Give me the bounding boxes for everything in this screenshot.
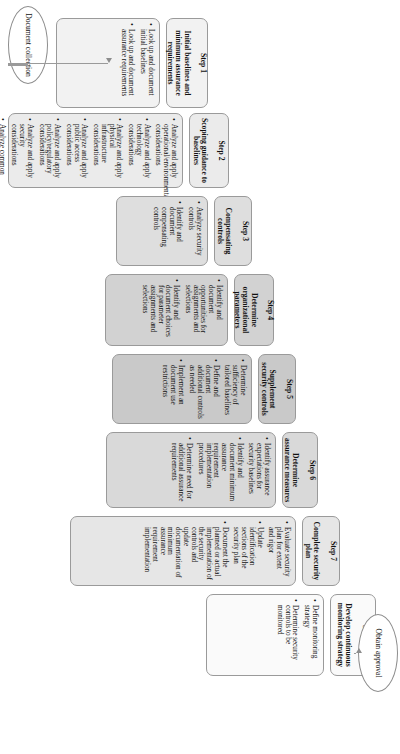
step2-bullet-3: Analyze and apply physical infrastructur… <box>91 124 122 183</box>
step6-step-label: Step 6 <box>308 437 316 503</box>
step8-body: Define monitoring strategy Determine sec… <box>206 594 324 676</box>
step5-step-label: Step 5 <box>285 359 293 419</box>
connector-doccollection-riser <box>28 63 108 64</box>
step4-step-label: Step 4 <box>266 279 274 341</box>
connector-doccollection-vertical <box>8 63 28 66</box>
step5-header: Step 5 Supplement security controls <box>258 354 296 424</box>
step3-heading: Compensating controls <box>216 201 232 261</box>
step3-step-label: Step 3 <box>241 201 249 261</box>
security-control-selection-flowchart: Step 1 Initial baselines and minimum ass… <box>0 0 400 754</box>
step7-heading: Complete security plan <box>304 521 320 581</box>
step2-step-label: Step 2 <box>217 118 225 183</box>
step7-step-label: Step 7 <box>329 521 337 581</box>
obtain-approval-label: Obtain approval <box>374 628 383 677</box>
step7-bullet-1: Evaluate security plan for extent and ri… <box>267 527 290 581</box>
step2-bullet-5: Analyze and apply policy/regulatory cons… <box>37 124 60 183</box>
arrowhead-to-step1 <box>106 58 112 63</box>
step2-body: Analyze and apply operational/environmen… <box>8 113 183 188</box>
step7-bullet-2: Update identification sections of the se… <box>232 527 263 581</box>
connector-step8-to-approval <box>354 653 356 654</box>
terminal-obtain-approval: Obtain approval <box>358 614 398 692</box>
step3-bullet-2: Identify and document compensating contr… <box>151 207 182 261</box>
step8-heading: Develop continuous monitoring strategy <box>336 599 352 671</box>
step1-bullet-2: Look up and document assurance requireme… <box>119 29 135 103</box>
step1-header: Step 1 Initial baselines and minimum ass… <box>166 18 208 108</box>
step6-bullet-1: Identify assurance expectations for secu… <box>247 443 270 503</box>
step4-body: Identify and document opportunities for … <box>105 274 228 346</box>
step2-header: Step 2 Scoping guidance to baselines <box>189 113 229 188</box>
step6-header: Step 6 Determine assurance measures <box>282 432 318 508</box>
step2-bullet-7: Analyze common control considerations <box>0 124 5 183</box>
step2-bullet-4: Analyze and apply public access consider… <box>64 124 87 183</box>
step4-heading: Determine organizational parameters <box>233 279 258 341</box>
step1-step-label: Step 1 <box>199 23 207 103</box>
step6-bullet-2: Identify and document minimum assurance … <box>196 443 243 503</box>
step7-header: Step 7 Complete security plan <box>302 516 340 586</box>
step7-body: Evaluate security plan for extent and ri… <box>70 516 296 586</box>
step3-body: Analyze security controls Identify and d… <box>116 196 208 266</box>
document-collection-label: Document collection <box>24 13 33 76</box>
diagram-stage: Step 1 Initial baselines and minimum ass… <box>0 0 400 754</box>
step1-bullet-1: Look up and document initial baselines <box>138 29 154 103</box>
step8-bullet-1: Define monitoring strategy <box>302 605 318 671</box>
step5-heading: Supplement security controls <box>260 359 276 419</box>
step4-header: Step 4 Determine organizational paramete… <box>234 274 274 346</box>
terminal-document-collection: Document collection <box>8 6 48 84</box>
step2-bullet-1: Analyze and apply operational/environmen… <box>154 124 177 183</box>
step1-heading: Initial baselines and minimum assurance … <box>166 23 191 103</box>
step7-bullet-3: Document the planned or actual implement… <box>142 527 227 581</box>
step3-header: Step 3 Compensating controls <box>214 196 252 266</box>
step2-bullet-6: Analyze and apply security consideration… <box>9 124 32 183</box>
step5-body: Determine sufficiency of tailored baseli… <box>112 354 252 424</box>
step6-bullet-3: Determine need for additional assurance … <box>169 443 192 503</box>
step5-bullet-1: Determine sufficiency of tailored baseli… <box>223 365 246 419</box>
step8-bullet-2: Determine security controls to be monito… <box>275 605 298 671</box>
step4-bullet-2: Identify and document choices for parame… <box>140 285 179 341</box>
step6-body: Identify assurance expectations for secu… <box>106 432 276 508</box>
step5-bullet-2: Define and document additional controls … <box>188 365 219 419</box>
step2-heading: Scoping guidance to baselines <box>192 118 208 183</box>
step5-bullet-3: Implement an document use restrictions <box>160 365 183 419</box>
step6-heading: Determine assurance measures <box>283 437 299 503</box>
step3-bullet-1: Analyze security controls <box>186 207 202 261</box>
step4-bullet-1: Identify and document opportunities for … <box>183 285 222 341</box>
arrowhead-to-approval <box>356 648 362 653</box>
step2-bullet-2: Analyze and apply technology considerati… <box>126 124 149 183</box>
